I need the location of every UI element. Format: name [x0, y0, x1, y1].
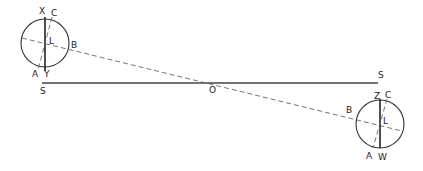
right-label-b: B — [346, 105, 352, 115]
left-circle-group: X C L B A Y — [21, 6, 77, 79]
left-label-c: C — [51, 8, 57, 18]
label-o: O — [209, 85, 216, 95]
right-label-w: W — [378, 152, 387, 162]
right-label-l: L — [383, 116, 388, 126]
left-label-l: L — [49, 36, 54, 46]
right-label-c: C — [385, 90, 391, 100]
label-s-right: S — [378, 70, 384, 80]
right-circle-group: Z C L B A W — [346, 90, 404, 162]
label-s-left: S — [40, 86, 46, 96]
left-label-b: B — [71, 40, 77, 50]
right-label-z: Z — [374, 91, 380, 101]
left-label-a: A — [32, 69, 39, 79]
left-label-x: X — [39, 6, 45, 16]
right-label-a: A — [366, 151, 373, 161]
diagram-canvas: S S O X C L B A Y Z C L B A W — [0, 0, 423, 171]
left-label-y: Y — [43, 69, 50, 79]
